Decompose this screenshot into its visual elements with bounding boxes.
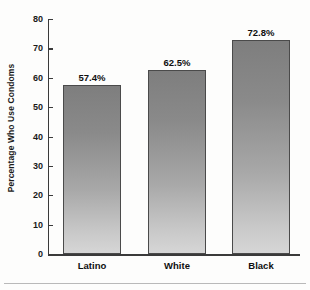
bar-value-label: 62.5% bbox=[164, 57, 191, 68]
y-axis-tick-label: 80 bbox=[33, 14, 43, 24]
bar-latino: 57.4% bbox=[63, 85, 121, 254]
y-axis-tick-label: 40 bbox=[33, 132, 43, 142]
x-axis-category-label: Black bbox=[248, 260, 273, 271]
y-axis-tick-mark bbox=[48, 195, 53, 196]
bar-value-label: 72.8% bbox=[248, 27, 275, 38]
y-axis-tick-label: 30 bbox=[33, 161, 43, 171]
y-axis-tick-mark bbox=[48, 107, 53, 108]
y-axis-tick-mark bbox=[48, 19, 53, 20]
y-axis-tick-label: 70 bbox=[33, 43, 43, 53]
y-axis-tick-mark bbox=[48, 78, 53, 79]
y-axis-tick-label: 50 bbox=[33, 102, 43, 112]
y-axis-tick-mark bbox=[48, 225, 53, 226]
y-axis-title: Percentage Who Use Condoms bbox=[0, 0, 22, 255]
bottom-divider bbox=[4, 283, 306, 284]
x-axis-category-label: Latino bbox=[78, 260, 107, 271]
y-axis-tick-label: 20 bbox=[33, 190, 43, 200]
y-axis-tick-mark bbox=[48, 137, 53, 138]
y-axis-tick-label: 60 bbox=[33, 73, 43, 83]
bar-white: 62.5% bbox=[148, 70, 206, 254]
y-axis-tick-mark bbox=[48, 48, 53, 49]
y-axis-tick-label: 10 bbox=[33, 220, 43, 230]
x-axis-line bbox=[48, 254, 300, 256]
bar-value-label: 57.4% bbox=[79, 72, 106, 83]
plot-area: 01020304050607080 57.4%62.5%72.8% Latino… bbox=[48, 19, 300, 255]
y-axis-tick-mark bbox=[48, 166, 53, 167]
x-axis-category-label: White bbox=[164, 260, 190, 271]
y-axis-tick-mark bbox=[48, 254, 53, 255]
bar-chart-figure: Percentage Who Use Condoms 0102030405060… bbox=[0, 0, 310, 290]
y-axis-title-text: Percentage Who Use Condoms bbox=[6, 63, 16, 192]
bar-black: 72.8% bbox=[232, 40, 290, 254]
y-axis-tick-label: 0 bbox=[38, 249, 43, 259]
